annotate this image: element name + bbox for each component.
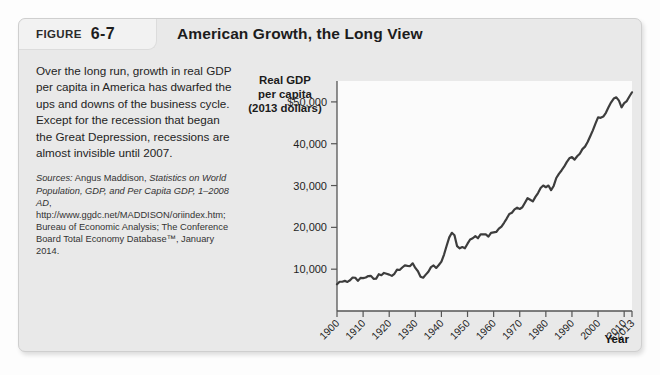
plot-background — [337, 81, 632, 311]
caption-body: Over the long run, growth in real GDP pe… — [36, 63, 232, 161]
x-axis-tick-label: 1930 — [396, 317, 420, 341]
sources-text-2: , http://www.ggdc.net/MADDISON/oriindex.… — [36, 198, 228, 256]
figure-title: American Growth, the Long View — [177, 25, 423, 43]
y-axis-tick-label: 30,000 — [293, 180, 327, 192]
x-axis-tick-label: 1970 — [500, 317, 524, 341]
x-axis-tick-label: 2000 — [578, 317, 602, 341]
x-axis-title: Year — [604, 332, 629, 345]
x-axis-tick-label: 1910 — [343, 317, 367, 341]
x-axis-tick-label: 1980 — [526, 317, 550, 341]
sources-text-1: Angus Maddison, — [73, 173, 150, 183]
x-axis-tick-label: 1920 — [369, 317, 393, 341]
x-axis-tick-label: 1960 — [474, 317, 498, 341]
x-axis-tick-label: 1940 — [422, 317, 446, 341]
figure-number: 6-7 — [91, 25, 115, 43]
x-axis-tick-label: 1990 — [552, 317, 576, 341]
figure-label: FIGURE — [36, 28, 82, 40]
x-axis-tick-label: 1900 — [317, 317, 341, 341]
gdp-line-chart: $50,00040,00030,00020,00010,000190019101… — [231, 49, 635, 349]
y-axis-tick-label: 20,000 — [293, 221, 327, 233]
caption-sources: Sources: Angus Maddison, Statistics on W… — [36, 172, 232, 257]
figure-card: FIGURE 6-7 American Growth, the Long Vie… — [18, 18, 642, 352]
y-axis-tick-label: 10,000 — [293, 263, 327, 275]
x-axis-tick-label: 1950 — [448, 317, 472, 341]
sources-label: Sources: — [36, 173, 73, 183]
chart-area: Real GDPper capita(2013 dollars) $50,000… — [231, 49, 635, 349]
y-axis-tick-label: 40,000 — [293, 138, 327, 150]
caption-column: Over the long run, growth in real GDP pe… — [36, 63, 232, 257]
y-axis-tick-label: $50,000 — [287, 96, 327, 108]
figure-number-tab: FIGURE 6-7 — [19, 19, 157, 50]
